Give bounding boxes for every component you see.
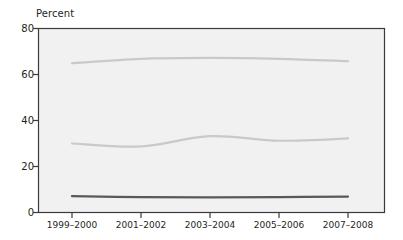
plot-area-background — [39, 29, 385, 213]
y-axis-ticks — [33, 29, 39, 213]
chart-canvas — [0, 0, 403, 240]
line-chart: Percent 80 60 40 20 0 1999–2000 2001–200… — [0, 0, 403, 240]
x-axis-ticks — [72, 213, 348, 219]
series-line-2 — [72, 196, 348, 197]
